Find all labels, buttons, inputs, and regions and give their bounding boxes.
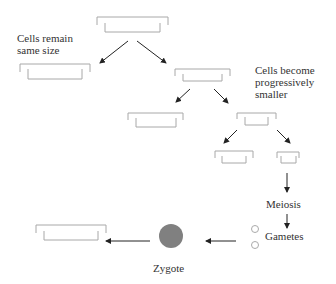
cell-level3-left: [215, 151, 253, 163]
arrow-top-right: [137, 41, 166, 63]
label-gametes: Gametes: [265, 230, 303, 242]
label-cells-become: Cells become progressively smaller: [255, 64, 315, 100]
zygote-circle: [159, 224, 183, 248]
cell-level2-left: [128, 113, 183, 127]
gamete-circle-2: [252, 242, 259, 249]
arrow-r1-right: [214, 89, 228, 103]
cell-adult: [36, 225, 106, 240]
gamete-circle-1: [252, 226, 259, 233]
cell-level2-right: [237, 113, 276, 125]
label-meiosis: Meiosis: [266, 198, 301, 210]
cell-level3-right: [277, 152, 299, 163]
label-zygote: Zygote: [153, 262, 184, 274]
cell-left-same-size: [20, 64, 90, 79]
arrow-l2-right: [277, 130, 290, 143]
cell-right-1: [175, 69, 230, 81]
arrow-r1-left: [176, 89, 190, 102]
arrow-l2-left: [224, 130, 237, 143]
label-cells-remain: Cells remain same size: [17, 32, 73, 56]
cell-top: [97, 17, 168, 32]
arrow-top-left: [100, 41, 128, 63]
